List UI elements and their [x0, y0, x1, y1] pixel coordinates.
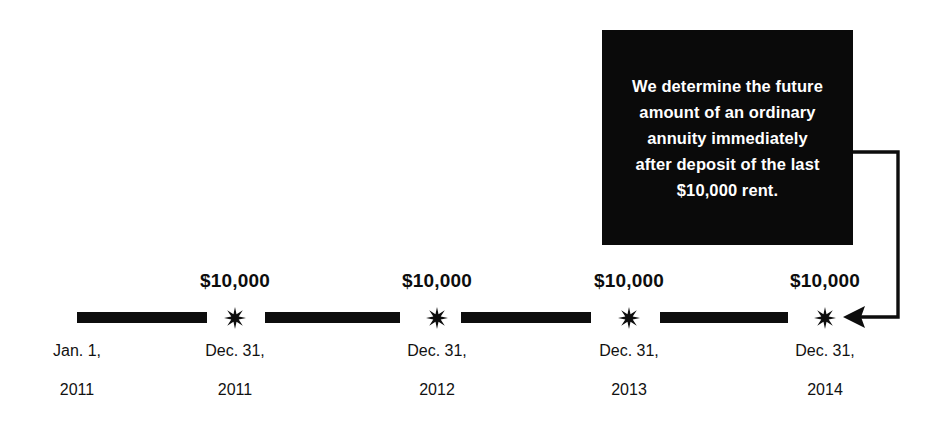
timeline-date-label: Dec. 31, — [795, 342, 855, 360]
timeline-date-label: Dec. 31, — [599, 342, 659, 360]
timeline-date-label: Jan. 1, — [53, 342, 101, 360]
timeline-year-label: 2013 — [611, 381, 647, 399]
starburst-icon — [618, 307, 640, 329]
starburst-icon — [814, 307, 836, 329]
starburst-icon — [426, 307, 448, 329]
starburst-icon — [224, 307, 246, 329]
timeline-year-label: 2012 — [419, 381, 455, 399]
deposit-amount-label: $10,000 — [790, 270, 860, 292]
timeline-date-label: Dec. 31, — [205, 342, 265, 360]
annuity-timeline-diagram: We determine the future amount of an ord… — [0, 0, 936, 431]
timeline-date-label: Dec. 31, — [407, 342, 467, 360]
timeline-segment — [77, 312, 207, 323]
deposit-amount-label: $10,000 — [594, 270, 664, 292]
timeline-year-label: 2011 — [60, 381, 94, 399]
deposit-amount-label: $10,000 — [200, 270, 270, 292]
timeline-segment — [461, 312, 591, 323]
timeline: Jan. 1,2011$10,000Dec. 31,2011$10,000Dec… — [0, 0, 936, 431]
timeline-segment — [265, 312, 400, 323]
timeline-year-label: 2014 — [807, 381, 843, 399]
timeline-year-label: 2011 — [218, 381, 252, 399]
deposit-amount-label: $10,000 — [402, 270, 472, 292]
timeline-segment — [660, 312, 788, 323]
